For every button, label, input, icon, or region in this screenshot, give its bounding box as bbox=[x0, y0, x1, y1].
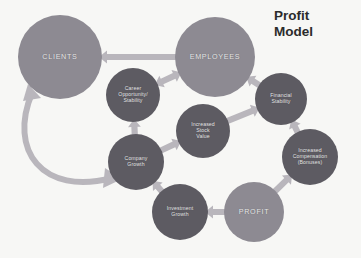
node-employees[interactable] bbox=[175, 17, 255, 97]
title-line-2: Model bbox=[274, 24, 352, 40]
node-career[interactable] bbox=[106, 68, 160, 122]
title-line-1: Profit bbox=[274, 8, 352, 24]
node-company[interactable] bbox=[108, 134, 164, 190]
arrow-employees-to-clients bbox=[99, 51, 178, 64]
node-compensation[interactable] bbox=[282, 129, 338, 185]
arrow-profit-to-investment bbox=[205, 206, 227, 219]
node-stock[interactable] bbox=[176, 104, 230, 158]
node-investment[interactable] bbox=[152, 184, 208, 240]
page-title: Profit Model bbox=[274, 8, 352, 41]
arrow-career-to-employees bbox=[155, 70, 182, 87]
node-clients[interactable] bbox=[18, 15, 102, 99]
profit-model-diagram: Profit Model CLIENTSEMPLOYEESCareerOppor… bbox=[0, 0, 361, 258]
node-financial[interactable] bbox=[255, 73, 307, 125]
arrow-stock-to-financial bbox=[224, 105, 260, 125]
node-profit[interactable] bbox=[224, 182, 284, 242]
